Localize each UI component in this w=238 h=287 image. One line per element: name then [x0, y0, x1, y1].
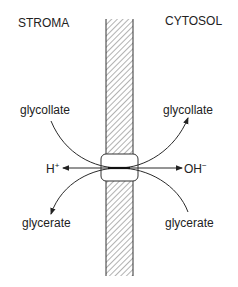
hydroxide-charge: − — [202, 161, 207, 170]
diagram-canvas — [0, 0, 238, 287]
hydroxide-label: OH− — [184, 162, 207, 176]
glycollate-right-label: glycollate — [163, 103, 213, 117]
glycerate-left-label: glycerate — [22, 216, 71, 230]
proton-label: H+ — [46, 162, 59, 176]
membrane — [106, 19, 133, 276]
proton-symbol: H — [46, 162, 55, 176]
proton-charge: + — [55, 161, 60, 170]
cytosol-label: CYTOSOL — [165, 14, 222, 28]
stroma-label: STROMA — [18, 16, 69, 30]
glycerate-right-label: glycerate — [165, 216, 214, 230]
glycollate-left-label: glycollate — [20, 103, 70, 117]
hydroxide-symbol: OH — [184, 162, 202, 176]
